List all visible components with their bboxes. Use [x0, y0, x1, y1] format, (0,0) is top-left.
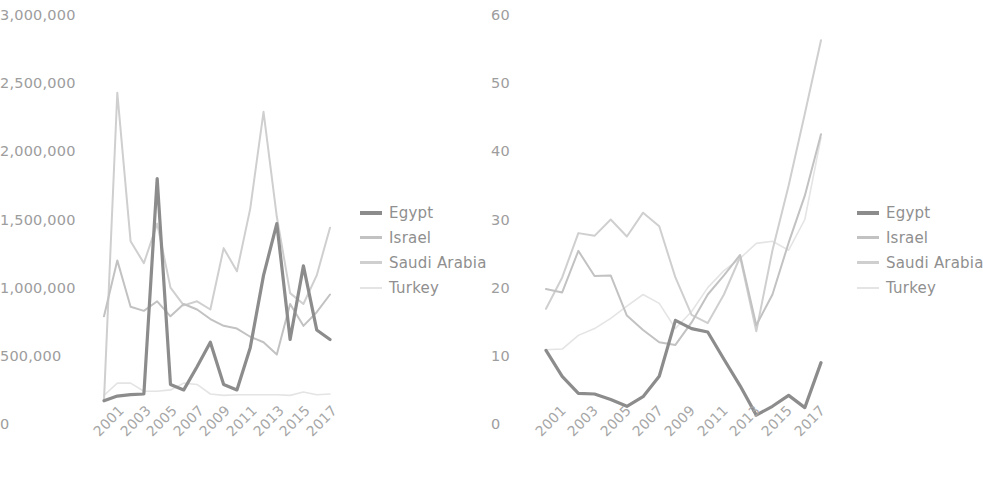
legend-swatch-icon: [360, 211, 382, 215]
legend-item-label: Turkey: [389, 279, 439, 297]
series-line-saudi-arabia: [546, 40, 821, 331]
legend-swatch-icon: [857, 236, 879, 239]
legend-item-label: Egypt: [389, 204, 433, 222]
legend-item-label: Egypt: [886, 204, 930, 222]
legend-item-israel[interactable]: Israel: [360, 225, 487, 250]
legend-item-saudi-arabia[interactable]: Saudi Arabia: [360, 250, 487, 275]
legend-right: EgyptIsraelSaudi ArabiaTurkey: [857, 200, 983, 300]
dual-line-chart-figure: 0500,0001,000,0001,500,0002,000,0002,500…: [0, 0, 983, 480]
legend-swatch-icon: [857, 211, 879, 215]
legend-swatch-icon: [360, 287, 382, 289]
series-line-turkey: [546, 138, 821, 350]
legend-item-label: Turkey: [886, 279, 936, 297]
legend-swatch-icon: [857, 261, 879, 264]
legend-item-label: Israel: [389, 229, 431, 247]
series-line-saudi-arabia: [104, 93, 330, 400]
series-line-israel: [546, 134, 821, 345]
legend-item-saudi-arabia[interactable]: Saudi Arabia: [857, 250, 983, 275]
legend-swatch-icon: [360, 261, 382, 264]
legend-item-egypt[interactable]: Egypt: [360, 200, 487, 225]
legend-left: EgyptIsraelSaudi ArabiaTurkey: [360, 200, 487, 300]
legend-swatch-icon: [360, 236, 382, 239]
chart-panel-right: 0102030405060 20012003200520072009201120…: [491, 0, 983, 480]
legend-item-label: Saudi Arabia: [389, 254, 487, 272]
chart-panel-left: 0500,0001,000,0001,500,0002,000,0002,500…: [0, 0, 491, 480]
legend-item-egypt[interactable]: Egypt: [857, 200, 983, 225]
legend-item-turkey[interactable]: Turkey: [857, 275, 983, 300]
legend-item-turkey[interactable]: Turkey: [360, 275, 487, 300]
legend-item-label: Israel: [886, 229, 928, 247]
series-line-egypt: [104, 179, 330, 401]
legend-item-label: Saudi Arabia: [886, 254, 983, 272]
legend-item-israel[interactable]: Israel: [857, 225, 983, 250]
legend-swatch-icon: [857, 287, 879, 289]
